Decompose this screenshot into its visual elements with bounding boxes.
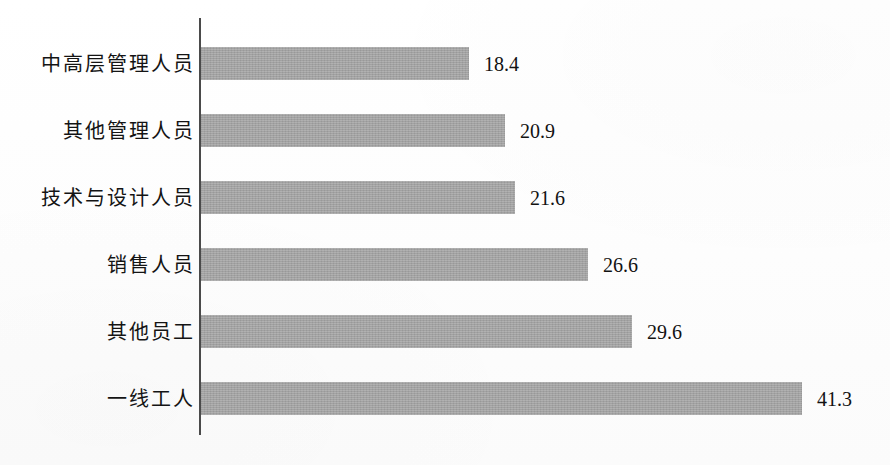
chart-row: 中高层管理人员 18.4 (0, 47, 890, 80)
category-label: 其他管理人员 (63, 121, 195, 141)
chart-row: 一线工人 41.3 (0, 382, 890, 415)
bar (201, 47, 469, 80)
bar-value-label: 29.6 (647, 322, 682, 342)
bar-value-label: 21.6 (530, 188, 565, 208)
chart-row: 其他管理人员 20.9 (0, 114, 890, 147)
bar-value-label: 41.3 (817, 389, 852, 409)
bar-value-label: 18.4 (484, 54, 519, 74)
value-axis-line (199, 18, 201, 435)
chart-row: 技术与设计人员 21.6 (0, 181, 890, 214)
chart-row: 销售人员 26.6 (0, 248, 890, 281)
bar (201, 315, 632, 348)
bar (201, 382, 802, 415)
bar (201, 181, 515, 214)
category-label: 其他员工 (107, 322, 195, 342)
bar (201, 248, 588, 281)
chart-row: 其他员工 29.6 (0, 315, 890, 348)
category-label: 一线工人 (107, 389, 195, 409)
category-label: 销售人员 (107, 255, 195, 275)
category-label: 中高层管理人员 (41, 54, 195, 74)
bar-value-label: 20.9 (520, 121, 555, 141)
bar-value-label: 26.6 (603, 255, 638, 275)
category-label: 技术与设计人员 (41, 188, 195, 208)
bar (201, 114, 505, 147)
bar-chart-plot-area: 中高层管理人员 18.4 其他管理人员 20.9 技术与设计人员 21.6 销售… (0, 0, 890, 465)
chart-page: 中高层管理人员 18.4 其他管理人员 20.9 技术与设计人员 21.6 销售… (0, 0, 890, 465)
